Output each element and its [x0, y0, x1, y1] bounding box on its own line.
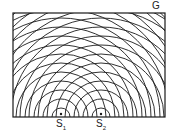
source-point	[100, 113, 102, 115]
screen-label-text: G	[152, 0, 160, 11]
source2-subscript: 2	[103, 125, 106, 131]
source1-subscript: 1	[63, 125, 66, 131]
source1-label-text: S	[56, 118, 63, 129]
screen-label: G	[152, 1, 160, 11]
wavefronts	[0, 0, 176, 135]
screen-frame	[13, 13, 165, 117]
wavefront-arc	[0, 36, 142, 135]
source-point	[60, 113, 62, 115]
interference-diagram	[0, 0, 176, 135]
source2-label-text: S	[96, 118, 103, 129]
wavefront-arc	[0, 45, 133, 135]
source2-label: S2	[96, 119, 106, 131]
source1-label: S1	[56, 119, 66, 131]
